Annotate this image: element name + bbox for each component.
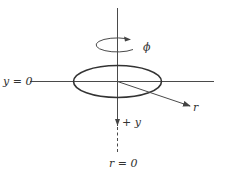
r-arrow (118, 82, 191, 107)
plus-y-label: + y (122, 116, 142, 129)
coordinate-diagram: ϕ y = 0 r + y r = 0 (0, 0, 225, 175)
y-zero-label: y = 0 (2, 75, 32, 88)
phi-label: ϕ (143, 41, 151, 54)
rotation-arrowhead-icon (124, 37, 131, 42)
r-label: r (193, 101, 199, 114)
plus-y-arrow-icon (115, 119, 120, 126)
r-zero-label: r = 0 (109, 157, 137, 170)
